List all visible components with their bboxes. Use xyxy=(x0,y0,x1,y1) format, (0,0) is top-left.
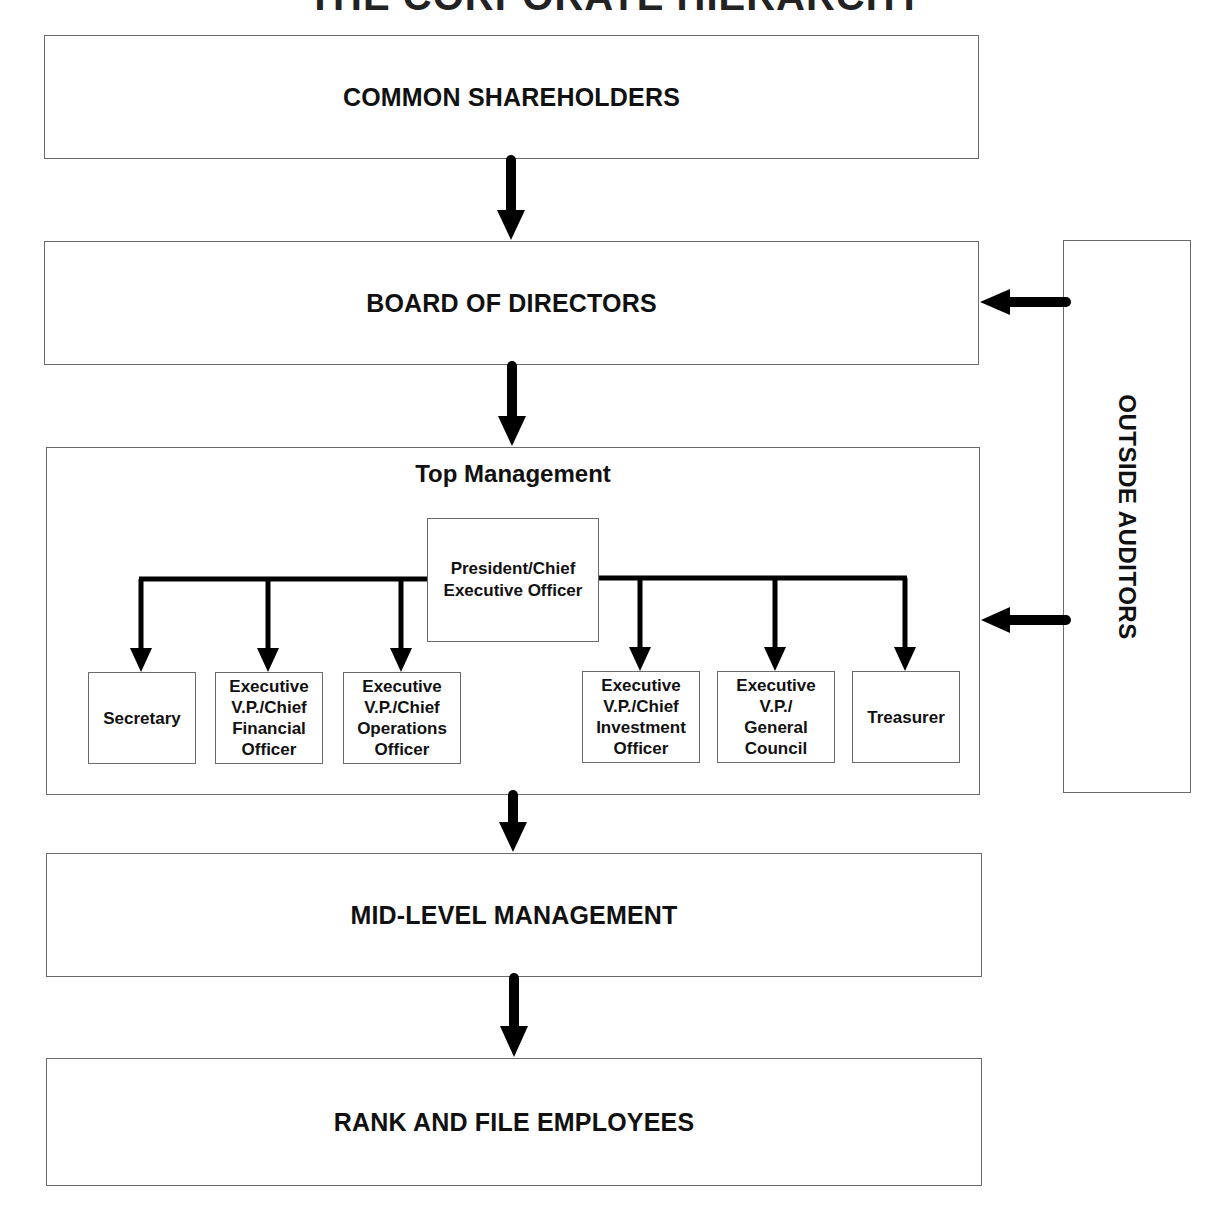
officer-label: V.P./Chief xyxy=(357,697,447,718)
ceo-label-line1: President/Chief xyxy=(444,558,583,580)
officer-label: V.P./ xyxy=(736,696,815,717)
shareholders-label: COMMON SHAREHOLDERS xyxy=(343,83,680,112)
board-of-directors-box: BOARD OF DIRECTORS xyxy=(44,241,979,365)
officer-label: Secretary xyxy=(103,708,181,729)
officer-label: General xyxy=(736,717,815,738)
board-of-directors-label: BOARD OF DIRECTORS xyxy=(366,289,657,318)
diagram-title: THE CORPORATE HIERARCHY xyxy=(0,0,1231,19)
officer-box-secretary: Secretary xyxy=(88,672,196,764)
officer-label: Executive xyxy=(229,676,308,697)
arrow-auditors-to-board-icon xyxy=(980,289,1066,315)
arrow-mid-to-rank-and-file-icon xyxy=(500,978,528,1057)
rank-and-file-box: RANK AND FILE EMPLOYEES xyxy=(46,1058,982,1186)
ceo-box: President/Chief Executive Officer xyxy=(427,518,599,642)
mid-management-label: MID-LEVEL MANAGEMENT xyxy=(350,901,677,930)
officer-label: Executive xyxy=(596,675,686,696)
officer-label: Financial xyxy=(229,718,308,739)
ceo-label-line2: Executive Officer xyxy=(444,580,583,602)
officer-box-general-council: Executive V.P./ General Council xyxy=(717,671,835,763)
officer-label: V.P./Chief xyxy=(229,697,308,718)
officer-label: Investment xyxy=(596,717,686,738)
officer-box-treasurer: Treasurer xyxy=(852,671,960,763)
rank-and-file-label: RANK AND FILE EMPLOYEES xyxy=(334,1108,695,1137)
arrow-top-to-mid-management-icon xyxy=(499,795,527,852)
outside-auditors-label: OUTSIDE AUDITORS xyxy=(1113,394,1141,639)
officer-label: V.P./Chief xyxy=(596,696,686,717)
shareholders-box: COMMON SHAREHOLDERS xyxy=(44,35,979,159)
officer-box-cio: Executive V.P./Chief Investment Officer xyxy=(582,671,700,763)
officer-label: Executive xyxy=(736,675,815,696)
officer-label: Officer xyxy=(357,739,447,760)
officer-box-cfo: Executive V.P./Chief Financial Officer xyxy=(215,672,323,764)
officer-label: Council xyxy=(736,738,815,759)
officer-box-coo: Executive V.P./Chief Operations Officer xyxy=(343,672,461,764)
arrow-shareholders-to-board-icon xyxy=(497,160,525,240)
officer-label: Operations xyxy=(357,718,447,739)
officer-label: Treasurer xyxy=(867,707,945,728)
officer-label: Officer xyxy=(229,739,308,760)
mid-management-box: MID-LEVEL MANAGEMENT xyxy=(46,853,982,977)
officer-label: Executive xyxy=(357,676,447,697)
outside-auditors-box: OUTSIDE AUDITORS xyxy=(1063,240,1191,793)
arrow-auditors-to-top-management-icon xyxy=(981,607,1066,633)
top-management-label: Top Management xyxy=(47,460,979,488)
arrow-board-to-top-management-icon xyxy=(498,366,526,446)
officer-label: Officer xyxy=(596,738,686,759)
